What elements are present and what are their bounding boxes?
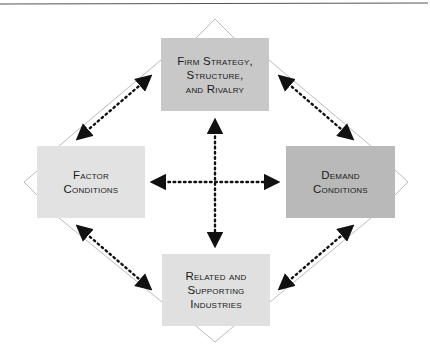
top-rule <box>0 3 428 4</box>
arrow-bottom-right <box>284 230 348 285</box>
node-label-line: Related and <box>185 269 246 283</box>
arrow-top-left <box>82 80 146 135</box>
node-label-line: Demand <box>313 168 368 182</box>
node-demand-conditions: Demand Conditions <box>286 146 395 218</box>
porter-diamond-diagram: Firm Strategy, Structure, and Rivalry Fa… <box>0 0 430 356</box>
node-label-line: Conditions <box>64 182 119 196</box>
arrow-left-bottom <box>82 230 146 285</box>
node-label-line: Firm Strategy, <box>177 54 253 68</box>
node-factor-conditions: Factor Conditions <box>37 146 145 218</box>
node-label-line: Conditions <box>313 182 368 196</box>
arrow-top-right <box>284 80 348 135</box>
node-firm-strategy: Firm Strategy, Structure, and Rivalry <box>161 38 269 111</box>
node-label-line: Structure, <box>177 68 253 82</box>
node-label-line: Industries <box>185 297 246 311</box>
node-related-industries: Related and Supporting Industries <box>162 254 270 326</box>
node-label-line: Factor <box>64 168 119 182</box>
node-label-line: and Rivalry <box>177 82 253 96</box>
node-label-line: Supporting <box>185 283 246 297</box>
